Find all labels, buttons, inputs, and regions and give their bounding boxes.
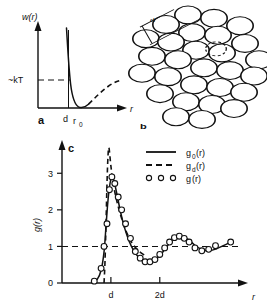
panel-c-curve-gd (104, 147, 145, 283)
packing-disc (201, 9, 227, 27)
packing-disc (232, 34, 258, 52)
svg-text:r: r (73, 116, 76, 126)
data-point-marker (104, 221, 110, 227)
packing-disc (221, 100, 247, 118)
panel-a-curve-solid (67, 28, 89, 108)
y-tick-label: 2 (48, 205, 53, 215)
panel-c-x-ticks: d2d (108, 277, 164, 300)
packing-disc (246, 51, 267, 69)
svg-text:(r): (r) (196, 161, 205, 171)
panel-c-curve-g0 (92, 177, 230, 282)
data-point-marker (123, 221, 129, 227)
packing-disc (165, 51, 191, 69)
packing-disc (181, 76, 207, 94)
data-point-marker (109, 174, 115, 180)
packing-disc (191, 59, 217, 77)
data-point-marker (115, 194, 121, 200)
packing-disc (139, 47, 165, 65)
data-point-marker (101, 244, 107, 250)
panel-a-kt-label: ~kT (8, 75, 24, 85)
panel-c-radial-distribution: 0123 d2d g(r) r c (0, 130, 267, 307)
panel-b-svg: d b (130, 0, 267, 133)
x-tick-label: 2d (155, 290, 165, 300)
panel-a-tick-r0: r 0 (73, 116, 83, 128)
panel-a-y-axis-label: w(r) (22, 12, 38, 22)
data-point-marker (91, 278, 97, 284)
panel-c-x-axis (62, 280, 248, 287)
panel-c-y-axis (59, 140, 66, 283)
data-point-marker (98, 265, 104, 271)
panel-a-pair-potential: w(r) r ~kT d r 0 a (0, 0, 140, 130)
data-point-marker (119, 207, 125, 213)
data-point-marker (128, 235, 134, 241)
data-point-marker (157, 252, 163, 258)
data-point-marker (199, 248, 205, 254)
data-point-marker (206, 246, 212, 252)
panel-c-letter: c (68, 142, 74, 154)
panel-a-y-axis (35, 21, 42, 108)
panel-c-svg: 0123 d2d g(r) r c (0, 130, 267, 307)
packing-disc (227, 17, 253, 35)
panel-a-curve-dashed-tail (89, 80, 121, 104)
packing-circles-group (129, 6, 267, 128)
svg-text:(r): (r) (196, 148, 205, 158)
legend-entry-g: g (r) (186, 174, 201, 184)
panel-c-legend: g 0 (r) g d (r) g (r) (146, 148, 205, 184)
data-point-marker (192, 245, 198, 251)
packing-disc (207, 79, 233, 97)
data-point-marker (228, 239, 234, 245)
packing-disc (129, 64, 155, 82)
panel-c-markers-g (91, 174, 233, 284)
panel-a-svg: w(r) r ~kT d r 0 a (0, 0, 140, 130)
svg-text:g: g (186, 148, 191, 158)
panel-a-letter: a (38, 114, 45, 126)
packing-disc (241, 67, 267, 85)
svg-text:(r): (r) (192, 174, 201, 184)
panel-b-disc-packing: d b (130, 0, 267, 133)
figure-root: w(r) r ~kT d r 0 a d b (0, 0, 267, 307)
legend-entry-gd: g d (r) (186, 161, 205, 173)
packing-disc (189, 110, 215, 128)
y-tick-label: 3 (48, 169, 53, 179)
data-point-marker (112, 181, 118, 187)
panel-c-y-axis-label: g(r) (32, 218, 42, 232)
panel-b-diameter-label: d (150, 17, 155, 24)
svg-text:0: 0 (79, 121, 83, 128)
data-point-marker (152, 257, 158, 263)
panel-c-x-axis-label: r (252, 292, 256, 302)
data-point-marker (213, 243, 219, 249)
data-point-marker (162, 245, 168, 251)
svg-text:g: g (186, 161, 191, 171)
y-tick-label: 0 (48, 278, 53, 288)
packing-disc (163, 108, 189, 126)
panel-a-tick-d: d (63, 114, 68, 124)
packing-disc (158, 33, 184, 51)
packing-disc (147, 85, 173, 103)
data-point-marker (132, 249, 138, 255)
packing-disc (217, 62, 243, 80)
legend-swatch-circles (146, 175, 175, 180)
packing-disc (231, 83, 257, 101)
data-point-marker (186, 239, 192, 245)
legend-entry-g0: g 0 (r) (186, 148, 205, 160)
data-point-marker (107, 187, 113, 193)
panel-c-y-ticks: 0123 (48, 169, 62, 289)
x-tick-label: d (108, 290, 113, 300)
data-point-marker (167, 239, 173, 245)
packing-disc (155, 68, 181, 86)
packing-disc (209, 44, 235, 62)
svg-text:g: g (186, 174, 191, 184)
y-tick-label: 1 (48, 242, 53, 252)
